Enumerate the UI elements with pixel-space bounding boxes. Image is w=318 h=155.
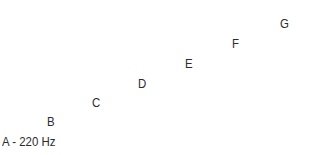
note-label-a: A - 220 Hz <box>2 135 55 148</box>
note-label-e: E <box>185 57 193 70</box>
note-label-f: F <box>232 37 239 50</box>
note-label-b: B <box>47 115 55 128</box>
note-label-c: C <box>92 96 100 109</box>
note-label-d: D <box>138 77 146 90</box>
note-scale-diagram: A - 220 Hz B C D E F G <box>0 0 318 155</box>
note-label-g: G <box>280 17 289 30</box>
